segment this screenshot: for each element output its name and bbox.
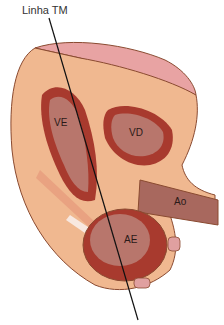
label-left-ventricle: VE: [54, 118, 67, 128]
heart-cross-section-illustration: [0, 0, 224, 325]
label-right-ventricle: VD: [129, 128, 143, 138]
label-left-atrium: AE: [124, 235, 137, 245]
pulmonary-vein-bottom: [134, 278, 150, 288]
heart-diagram: Linha TM VE VD Ao AE: [0, 0, 224, 325]
pulmonary-vein-right: [168, 237, 180, 251]
tm-line-label: Linha TM: [22, 5, 68, 16]
label-aorta: Ao: [174, 197, 186, 207]
